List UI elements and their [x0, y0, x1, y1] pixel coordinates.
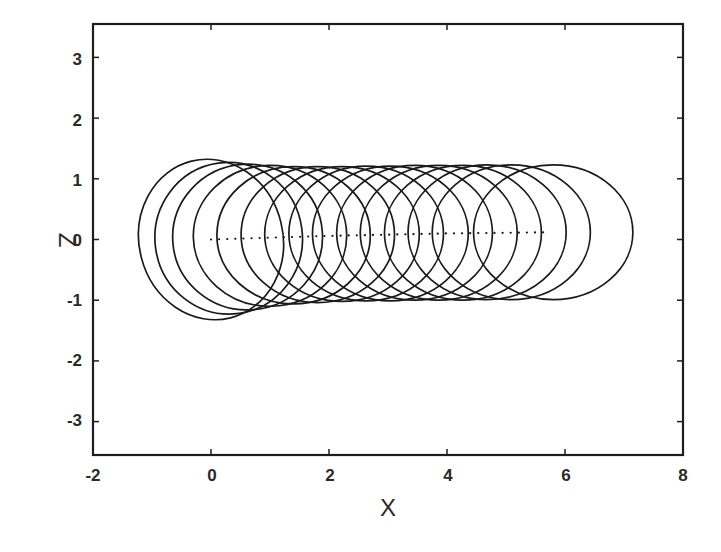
y-tick-label: 2 [73, 111, 82, 130]
y-tick-label: -2 [67, 351, 82, 370]
orbit-loop [474, 165, 633, 300]
x-tick-label: 0 [207, 466, 216, 485]
x-tick-label: -2 [85, 466, 100, 485]
y-tick-label: -3 [67, 411, 82, 430]
x-tick-label: 4 [443, 466, 453, 485]
x-tick-label: 8 [678, 466, 687, 485]
axis-ticks [93, 24, 683, 455]
plot-frame [93, 24, 683, 455]
chart: -2 0 2 4 6 8 3 2 1 0 -1 -2 -3 X Z [0, 0, 721, 552]
x-axis-label: X [380, 494, 396, 521]
plot-area [122, 144, 633, 336]
y-axis-label: Z [54, 233, 81, 248]
guiding-center-dotted-line [211, 232, 547, 239]
y-tick-label: 3 [73, 50, 82, 69]
orbit-loop [265, 167, 420, 302]
x-tick-label: 6 [561, 466, 570, 485]
orbit-loop [168, 159, 328, 315]
x-tick-labels: -2 0 2 4 6 8 [85, 466, 687, 485]
y-tick-label: 1 [73, 171, 82, 190]
y-tick-label: -1 [67, 291, 82, 310]
x-tick-label: 2 [325, 466, 334, 485]
